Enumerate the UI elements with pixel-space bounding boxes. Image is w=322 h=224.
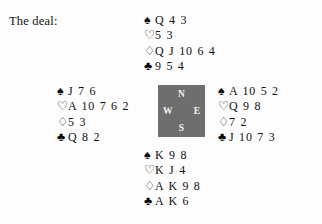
compass-west-label: W bbox=[163, 106, 173, 116]
club-icon: ♣ bbox=[218, 130, 229, 145]
south-diamonds-row: ♢A K 9 8 bbox=[144, 179, 201, 194]
east-diamonds-row: ♢7 2 bbox=[218, 115, 279, 130]
spade-icon: ♠ bbox=[57, 84, 68, 99]
north-diamonds-cards: Q J 10 6 4 bbox=[155, 44, 216, 59]
north-hearts-cards: 5 3 bbox=[155, 28, 173, 43]
east-clubs-row: ♣J 10 7 3 bbox=[218, 130, 279, 145]
hand-east: ♠A 10 5 2 ♡Q 9 8 ♢7 2 ♣J 10 7 3 bbox=[218, 84, 279, 146]
club-icon: ♣ bbox=[144, 194, 155, 209]
north-spades-row: ♠Q 4 3 bbox=[144, 13, 216, 28]
south-clubs-cards: A K 6 bbox=[155, 194, 189, 209]
south-spades-cards: K 9 8 bbox=[155, 148, 187, 163]
deal-caption: The deal: bbox=[9, 14, 58, 28]
north-diamonds-row: ♢Q J 10 6 4 bbox=[144, 44, 216, 59]
north-hearts-row: ♡5 3 bbox=[144, 28, 216, 43]
compass-south-label: S bbox=[158, 123, 205, 133]
west-hearts-row: ♡A 10 7 6 2 bbox=[57, 99, 129, 114]
hand-south: ♠K 9 8 ♡K J 4 ♢A K 9 8 ♣A K 6 bbox=[144, 148, 201, 210]
west-spades-row: ♠J 7 6 bbox=[57, 84, 129, 99]
east-clubs-cards: J 10 7 3 bbox=[229, 130, 276, 145]
spade-icon: ♠ bbox=[144, 148, 155, 163]
west-clubs-cards: Q 8 2 bbox=[68, 130, 100, 145]
club-icon: ♣ bbox=[144, 59, 155, 74]
north-clubs-cards: 9 5 4 bbox=[155, 59, 185, 74]
west-hearts-cards: A 10 7 6 2 bbox=[68, 99, 129, 114]
west-clubs-row: ♣Q 8 2 bbox=[57, 130, 129, 145]
south-hearts-row: ♡K J 4 bbox=[144, 163, 201, 178]
diamond-icon: ♢ bbox=[218, 115, 229, 130]
spade-icon: ♠ bbox=[218, 84, 229, 99]
west-diamonds-cards: 5 3 bbox=[68, 115, 86, 130]
diamond-icon: ♢ bbox=[144, 179, 155, 194]
spade-icon: ♠ bbox=[144, 13, 155, 28]
south-clubs-row: ♣A K 6 bbox=[144, 194, 201, 209]
bridge-deal-diagram: The deal: ♠Q 4 3 ♡5 3 ♢Q J 10 6 4 ♣9 5 4… bbox=[0, 0, 322, 224]
west-diamonds-row: ♢5 3 bbox=[57, 115, 129, 130]
hand-west: ♠J 7 6 ♡A 10 7 6 2 ♢5 3 ♣Q 8 2 bbox=[57, 84, 129, 146]
east-spades-row: ♠A 10 5 2 bbox=[218, 84, 279, 99]
east-spades-cards: A 10 5 2 bbox=[229, 84, 279, 99]
east-hearts-row: ♡Q 9 8 bbox=[218, 99, 279, 114]
south-spades-row: ♠K 9 8 bbox=[144, 148, 201, 163]
west-spades-cards: J 7 6 bbox=[68, 84, 96, 99]
diamond-icon: ♢ bbox=[144, 44, 155, 59]
north-spades-cards: Q 4 3 bbox=[155, 13, 187, 28]
north-clubs-row: ♣9 5 4 bbox=[144, 59, 216, 74]
south-diamonds-cards: A K 9 8 bbox=[155, 179, 201, 194]
heart-icon: ♡ bbox=[144, 28, 155, 43]
compass-north-label: N bbox=[158, 89, 205, 99]
heart-icon: ♡ bbox=[144, 163, 155, 178]
south-hearts-cards: K J 4 bbox=[155, 163, 186, 178]
heart-icon: ♡ bbox=[218, 99, 229, 114]
club-icon: ♣ bbox=[57, 130, 68, 145]
east-diamonds-cards: 7 2 bbox=[229, 115, 247, 130]
heart-icon: ♡ bbox=[57, 99, 68, 114]
diamond-icon: ♢ bbox=[57, 115, 68, 130]
east-hearts-cards: Q 9 8 bbox=[229, 99, 261, 114]
compass-east-label: E bbox=[194, 106, 200, 116]
hand-north: ♠Q 4 3 ♡5 3 ♢Q J 10 6 4 ♣9 5 4 bbox=[144, 13, 216, 75]
compass-box: N W E S bbox=[158, 85, 205, 137]
